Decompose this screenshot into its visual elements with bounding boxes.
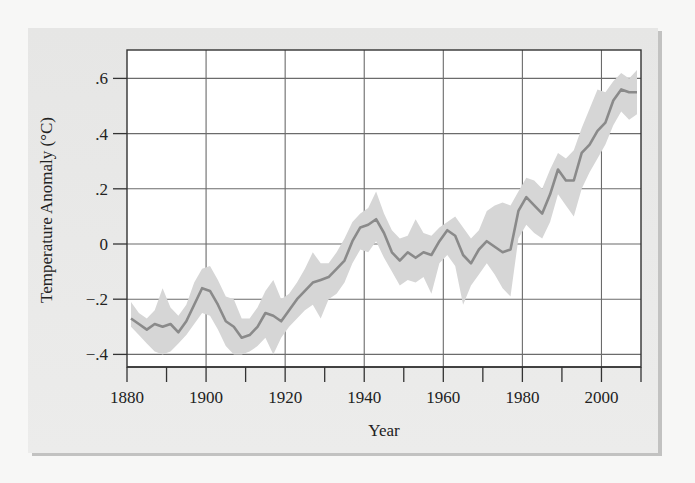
y-tick-label: .2 <box>95 180 108 199</box>
y-tick-label: .4 <box>95 125 108 144</box>
x-tick-label: 2000 <box>584 388 618 407</box>
y-tick-label: −.2 <box>86 290 108 309</box>
temperature-anomaly-chart: 1880190019201940196019802000 .6.4.20−.2−… <box>0 0 695 483</box>
x-tick-label: 1960 <box>426 388 460 407</box>
x-axis-ticks: 1880190019201940196019802000 <box>110 367 641 407</box>
y-tick-label: .6 <box>95 69 108 88</box>
x-tick-label: 1940 <box>347 388 381 407</box>
y-tick-label: −.4 <box>86 345 109 364</box>
x-axis-title: Year <box>368 421 400 440</box>
x-tick-label: 1900 <box>189 388 223 407</box>
x-tick-label: 1980 <box>505 388 539 407</box>
y-axis-ticks: .6.4.20−.2−.4 <box>86 69 127 364</box>
plot-area <box>127 50 641 367</box>
y-axis-title: Temperature Anomaly (°C) <box>37 117 56 303</box>
y-tick-label: 0 <box>100 235 109 254</box>
x-tick-label: 1920 <box>268 388 302 407</box>
x-tick-label: 1880 <box>110 388 144 407</box>
